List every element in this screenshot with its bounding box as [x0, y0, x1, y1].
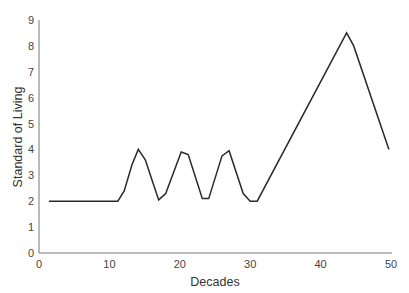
y-tick-label: 4 [28, 143, 34, 155]
y-tick-label: 7 [28, 66, 34, 78]
x-tick-labels: 01020304050 [36, 258, 397, 270]
y-axis-title: Standard of Living [11, 87, 25, 188]
y-tick-label: 3 [28, 169, 34, 181]
y-tick-label: 6 [28, 92, 34, 104]
x-axis-title: Decades [190, 275, 239, 289]
line-chart: 0123456789 01020304050 Decades Standard … [0, 0, 409, 293]
x-tick-label: 20 [174, 258, 186, 270]
x-tick-label: 50 [385, 258, 397, 270]
y-tick-label: 0 [28, 247, 34, 259]
x-tick-label: 30 [244, 258, 256, 270]
axes [39, 20, 392, 253]
y-tick-label: 2 [28, 195, 34, 207]
x-tick-label: 0 [36, 258, 42, 270]
y-tick-label: 5 [28, 118, 34, 130]
data-line [49, 33, 389, 201]
y-tick-label: 9 [28, 14, 34, 26]
x-tick-label: 40 [314, 258, 326, 270]
y-tick-label: 1 [28, 221, 34, 233]
x-tick-label: 10 [103, 258, 115, 270]
y-tick-labels: 0123456789 [28, 14, 34, 259]
y-tick-label: 8 [28, 40, 34, 52]
